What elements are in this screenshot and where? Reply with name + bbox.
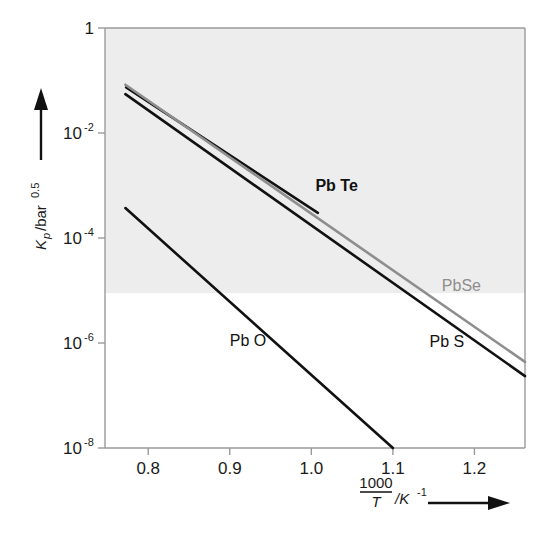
svg-text:10: 10: [63, 439, 82, 458]
svg-text:10: 10: [63, 229, 82, 248]
svg-text:p: p: [40, 233, 52, 240]
x-tick-label-0.9: 0.9: [218, 459, 242, 478]
svg-text:-8: -8: [84, 436, 94, 448]
series-label-pbse: PbSe: [442, 277, 481, 294]
x-tick-label-1.0: 1.0: [300, 459, 324, 478]
svg-text:/K: /K: [394, 490, 410, 507]
svg-text:-1: -1: [417, 486, 427, 498]
svg-text:10: 10: [63, 334, 82, 353]
x-tick-label-1.2: 1.2: [463, 459, 487, 478]
svg-text:/bar: /bar: [32, 205, 49, 231]
svg-text:-6: -6: [84, 331, 94, 343]
series-label-pbte: Pb Te: [315, 177, 357, 194]
chart-figure: 0.80.91.01.11.2110-210-410-610-8 Pb TePb…: [0, 0, 549, 533]
y-tick-label-1: 1: [85, 19, 94, 38]
shaded-region: [105, 28, 525, 293]
svg-text:1: 1: [85, 19, 94, 38]
x-tick-label-0.8: 0.8: [136, 459, 160, 478]
kp-vs-inverse-temperature-chart: 0.80.91.01.11.2110-210-410-610-8 Pb TePb…: [0, 0, 549, 533]
svg-text:K: K: [32, 239, 49, 250]
svg-text:1000: 1000: [359, 474, 392, 491]
svg-text:-4: -4: [84, 226, 94, 238]
series-label-pbo: Pb O: [230, 332, 266, 349]
series-label-pbs: Pb S: [430, 333, 465, 350]
svg-text:10: 10: [63, 124, 82, 143]
svg-text:0.5: 0.5: [29, 183, 41, 198]
svg-text:-2: -2: [84, 121, 94, 133]
shaded-band: [105, 28, 525, 293]
